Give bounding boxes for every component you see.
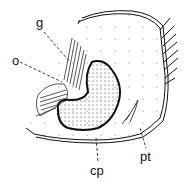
label-pt: pt [140,150,151,163]
anatomical-drawing [0,0,191,185]
label-cp: cp [90,164,104,177]
label-g: g [36,16,43,29]
label-o: o [12,54,19,67]
